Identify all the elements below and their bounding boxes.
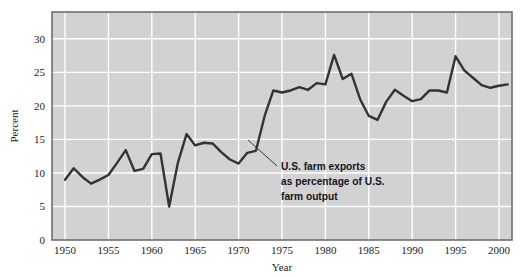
y-tick-label: 0: [40, 234, 46, 246]
y-tick-label: 5: [40, 200, 46, 212]
x-tick-label: 1980: [314, 244, 337, 256]
y-axis-title: Percent: [8, 110, 20, 143]
farm-exports-line-chart: 051015202530 195019551960196519701975198…: [0, 0, 532, 277]
x-tick-label: 1985: [358, 244, 381, 256]
x-tick-label: 1965: [184, 244, 207, 256]
x-tick-label: 1975: [271, 244, 294, 256]
y-tick-label: 30: [34, 33, 46, 45]
annotation-line-1: U.S. farm exports: [281, 161, 366, 172]
chart-figure: 051015202530 195019551960196519701975198…: [0, 0, 532, 277]
annotation-line-3: farm output: [281, 191, 338, 202]
x-tick-label: 1970: [228, 244, 251, 256]
x-tick-label: 1950: [54, 244, 77, 256]
x-tick-label: 1990: [401, 244, 424, 256]
y-tick-label: 10: [34, 167, 46, 179]
x-tick-label: 1960: [141, 244, 164, 256]
x-tick-label: 1995: [445, 244, 468, 256]
x-axis-title: Year: [272, 261, 293, 273]
y-tick-label: 15: [34, 133, 46, 145]
y-tick-label: 25: [34, 66, 46, 78]
annotation-line-2: as percentage of U.S.: [281, 176, 385, 187]
x-tick-label: 2000: [488, 244, 511, 256]
x-tick-label: 1955: [97, 244, 120, 256]
y-tick-label: 20: [34, 100, 46, 112]
